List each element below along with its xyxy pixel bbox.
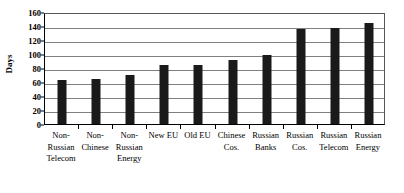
x-axis-label-line: Russian xyxy=(46,142,75,154)
x-axis-label-line: Energy xyxy=(116,153,143,165)
y-axis-tick-labels: 020406080100120140160 xyxy=(16,0,44,128)
x-axis-label-line: Russian xyxy=(252,130,279,142)
bar xyxy=(160,65,169,125)
y-tick-label: 140 xyxy=(28,23,41,32)
x-tick-mark xyxy=(78,125,79,129)
x-axis-label-line: Russian xyxy=(354,130,381,142)
x-axis-label-line: Energy xyxy=(354,142,381,154)
bar xyxy=(92,79,101,125)
x-axis-label-line: Banks xyxy=(252,142,279,154)
x-axis-ticks xyxy=(44,125,385,129)
x-axis-label-line: Cos. xyxy=(218,142,245,154)
x-axis-label-line: Russian xyxy=(319,130,348,142)
bar xyxy=(58,80,67,124)
y-tick-label: 20 xyxy=(33,107,42,116)
x-axis-label-line: Old EU xyxy=(184,130,210,142)
y-tick-label: 100 xyxy=(28,51,41,60)
x-tick-mark xyxy=(112,125,113,129)
bar xyxy=(228,60,237,124)
y-tick-label: 60 xyxy=(33,79,42,88)
bar-chart: Days 020406080100120140160 Non-RussianTe… xyxy=(0,0,404,193)
x-axis-label: RussianTelecom xyxy=(319,130,348,153)
bar xyxy=(126,75,135,124)
x-axis-label: ChineseCos. xyxy=(218,130,245,153)
x-axis-label-line: Cos. xyxy=(286,142,313,154)
bar xyxy=(262,55,271,124)
x-axis-label-line: Russian xyxy=(286,130,313,142)
bar xyxy=(296,29,305,124)
bar xyxy=(330,28,339,124)
x-axis-label: Non-RussianEnergy xyxy=(116,130,143,165)
x-axis-category-labels: Non-RussianTelecomNon-ChineseNon-Russian… xyxy=(44,130,385,190)
x-tick-mark xyxy=(317,125,318,129)
x-axis-label: Old EU xyxy=(184,130,210,142)
x-axis-label-line: Telecom xyxy=(319,142,348,154)
x-axis-label: RussianCos. xyxy=(286,130,313,153)
x-axis-label-line: Non- xyxy=(81,130,108,142)
y-tick-label: 80 xyxy=(33,65,42,74)
x-axis-label-line: Telecom xyxy=(46,153,75,165)
x-tick-mark xyxy=(180,125,181,129)
y-tick-label: 40 xyxy=(33,93,42,102)
x-axis-label: RussianEnergy xyxy=(354,130,381,153)
x-tick-mark xyxy=(215,125,216,129)
x-axis-label-line: Chinese xyxy=(81,142,108,154)
x-axis-label-line: Non- xyxy=(116,130,143,142)
bars-layer xyxy=(45,14,384,124)
x-axis-label: Non-RussianTelecom xyxy=(46,130,75,165)
plot-area xyxy=(44,13,385,125)
y-tick-label: 160 xyxy=(28,9,41,18)
x-axis-label-line: Russian xyxy=(116,142,143,154)
x-tick-mark xyxy=(249,125,250,129)
x-tick-mark xyxy=(146,125,147,129)
x-axis-label-line: New EU xyxy=(149,130,179,142)
x-axis-label-line: Chinese xyxy=(218,130,245,142)
bar xyxy=(194,65,203,125)
y-axis-title-label: Days xyxy=(3,54,13,73)
x-axis-label: RussianBanks xyxy=(252,130,279,153)
y-axis-title: Days xyxy=(0,0,16,128)
y-tick-label: 120 xyxy=(28,37,41,46)
x-axis-label-line: Non- xyxy=(46,130,75,142)
x-tick-mark xyxy=(351,125,352,129)
x-axis-label: Non-Chinese xyxy=(81,130,108,153)
bar xyxy=(364,23,373,125)
x-tick-mark xyxy=(283,125,284,129)
x-axis-label: New EU xyxy=(149,130,179,142)
